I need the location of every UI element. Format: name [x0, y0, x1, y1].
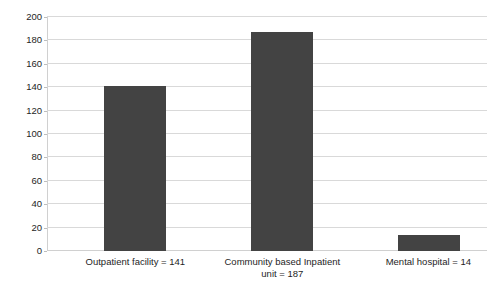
y-tick-label: 40 — [0, 199, 42, 209]
bar[interactable] — [251, 32, 313, 251]
y-tick-label: 180 — [0, 35, 42, 45]
y-tick-label: 120 — [0, 106, 42, 116]
y-tick-label: 140 — [0, 82, 42, 92]
y-tick-label: 0 — [0, 246, 42, 256]
x-axis-label: Community based Inpatient unit = 187 — [209, 256, 356, 280]
y-tick-label: 60 — [0, 176, 42, 186]
x-axis-label: Outpatient facility = 141 — [62, 256, 209, 268]
bar-chart: 020406080100120140160180200 Outpatient f… — [0, 0, 493, 296]
x-axis-label: Mental hospital = 14 — [355, 256, 493, 268]
bar[interactable] — [398, 235, 460, 251]
y-tick-label: 100 — [0, 129, 42, 139]
plot-area — [47, 17, 487, 251]
gridline-200 — [47, 16, 487, 17]
x-axis-labels: Outpatient facility = 141Community based… — [47, 256, 493, 296]
bar[interactable] — [104, 86, 166, 251]
y-tick-mark — [44, 251, 47, 252]
y-tick-label: 200 — [0, 12, 42, 22]
y-tick-label: 20 — [0, 223, 42, 233]
y-tick-label: 80 — [0, 152, 42, 162]
y-tick-label: 160 — [0, 59, 42, 69]
